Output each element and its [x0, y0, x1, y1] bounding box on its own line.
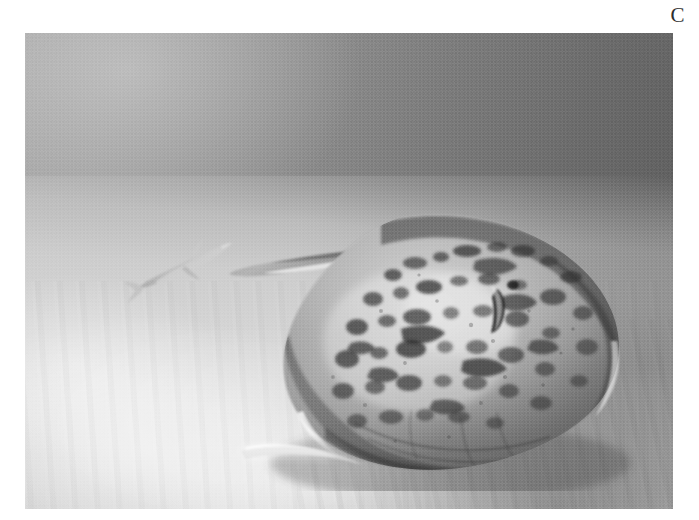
fish-caudal-fin: [124, 282, 143, 303]
underwater-photograph: Spotted stingray resting on the seabed: [25, 33, 673, 509]
ray-eye: [507, 281, 519, 290]
figure-panel: C: [0, 0, 699, 520]
stingray: [205, 201, 645, 491]
panel-label: C: [670, 0, 685, 30]
